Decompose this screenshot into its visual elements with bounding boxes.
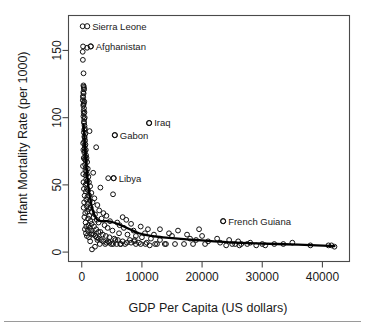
point-label: Gabon	[120, 130, 149, 141]
point-label: Iraq	[154, 117, 170, 128]
annotated-data-point	[147, 120, 152, 125]
data-point	[158, 227, 163, 232]
data-point	[117, 231, 122, 236]
data-point	[105, 225, 110, 230]
data-point	[98, 185, 103, 190]
x-tick-label: 20000	[185, 270, 219, 284]
data-points	[80, 24, 337, 252]
point-label: French Guiana	[228, 216, 292, 227]
point-label: Sierra Leone	[92, 21, 146, 32]
data-point	[197, 227, 202, 232]
x-tick-label: 10000	[125, 270, 159, 284]
scatter-plot-figure: 010000200003000040000 050100150 Sierra L…	[0, 0, 365, 331]
point-label: Afghanistan	[96, 41, 146, 52]
x-axis-ticks: 010000200003000040000	[78, 262, 339, 284]
data-point	[182, 242, 187, 247]
data-point	[200, 234, 205, 239]
y-axis-title: Infant Mortality Rate (per 1000)	[16, 52, 30, 225]
data-point	[138, 224, 143, 229]
data-point	[111, 192, 116, 197]
data-point	[95, 203, 100, 208]
data-point	[110, 228, 115, 233]
data-point	[81, 71, 86, 76]
y-tick-label: 0	[51, 248, 65, 255]
data-point	[94, 145, 99, 150]
data-point	[106, 176, 111, 181]
x-tick-label: 40000	[306, 270, 340, 284]
data-point	[124, 217, 129, 222]
data-point	[80, 49, 85, 54]
point-annotations: Sierra LeoneAfghanistanIraqGabonLibyaFre…	[85, 21, 292, 227]
data-point	[104, 213, 109, 218]
y-tick-label: 50	[51, 178, 65, 192]
data-point	[93, 244, 98, 249]
data-point	[203, 242, 208, 247]
data-point	[167, 231, 172, 236]
x-tick-label: 30000	[246, 270, 280, 284]
data-point	[125, 232, 130, 237]
chart-canvas: 010000200003000040000 050100150 Sierra L…	[0, 0, 365, 331]
data-point	[90, 247, 95, 252]
data-point	[101, 211, 106, 216]
annotated-data-point	[111, 176, 116, 181]
plot-frame	[69, 16, 350, 262]
data-point	[80, 57, 85, 62]
x-tick-label: 0	[78, 270, 85, 284]
y-axis-ticks: 050100150	[51, 40, 69, 255]
data-point	[144, 240, 149, 245]
y-tick-label: 150	[51, 40, 65, 60]
annotated-data-point	[112, 133, 117, 138]
data-point	[191, 242, 196, 247]
data-point	[176, 228, 181, 233]
y-tick-label: 100	[51, 107, 65, 127]
x-axis-title: GDP Per Capita (US dollars)	[129, 301, 288, 315]
data-point	[224, 243, 229, 248]
data-point	[129, 221, 134, 226]
annotated-data-point	[221, 219, 226, 224]
data-point	[91, 170, 96, 175]
data-point	[102, 223, 107, 228]
data-point	[173, 242, 178, 247]
point-label: Libya	[119, 173, 142, 184]
